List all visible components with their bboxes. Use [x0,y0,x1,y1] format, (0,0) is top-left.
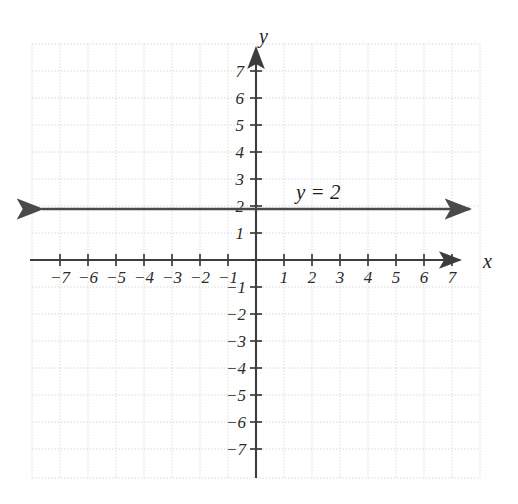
x-tick-label: −4 [134,268,154,287]
x-tick-label: 2 [308,268,317,287]
y-tick-label: 5 [236,116,245,135]
x-tick-label: 3 [335,268,345,287]
y-tick-label: −3 [226,332,246,351]
y-tick-label: 2 [236,197,245,216]
y-tick-label: −5 [226,386,246,405]
x-tick-label: 1 [280,268,289,287]
y-tick-label: −6 [226,413,246,432]
y-tick-label: 3 [235,170,245,189]
y-tick-label: −7 [226,440,247,459]
y-tick-label: −2 [226,305,246,324]
y-tick-label: −4 [226,359,246,378]
x-tick-label: −5 [106,268,126,287]
x-tick-label: 5 [392,268,401,287]
graph-canvas: −7 −6 −5 −4 −3 −2 −1 1 2 3 4 5 6 7 7 6 5… [0,0,518,504]
y-tick-label: −1 [226,278,246,297]
x-tick-label: −3 [162,268,182,287]
x-axis-label: x [482,250,492,272]
coordinate-plane-figure: −7 −6 −5 −4 −3 −2 −1 1 2 3 4 5 6 7 7 6 5… [0,0,518,504]
y-tick-label: 6 [236,89,245,108]
x-tick-label: −7 [50,268,71,287]
y-axis-label: y [257,25,268,48]
x-tick-label: −2 [190,268,210,287]
x-tick-label: 4 [364,268,373,287]
plot-background [0,0,518,504]
y-tick-label: 1 [236,224,245,243]
y-tick-label: 4 [236,143,245,162]
x-tick-label: 6 [420,268,429,287]
x-tick-label: −6 [78,268,98,287]
equation-annotation: y = 2 [294,180,341,204]
